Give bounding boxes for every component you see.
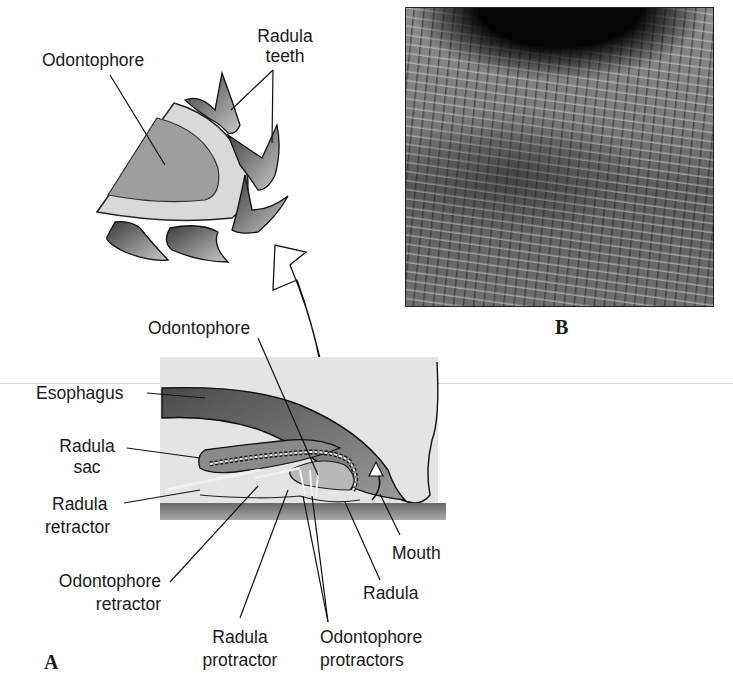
label-mouth: Mouth (392, 543, 441, 563)
label-radula: Radula (363, 583, 418, 603)
label-esophagus: Esophagus (36, 383, 124, 403)
label-radula-sac-1: Radula (52, 436, 122, 456)
label-odontophore-protractors-1: Odontophore (320, 627, 422, 647)
label-radula-retractor-2: retractor (45, 517, 110, 537)
label-radula-protractor-2: protractor (190, 650, 290, 670)
label-odontophore-retractor-1: Odontophore (40, 571, 161, 591)
label-odontophore: Odontophore (148, 318, 250, 338)
label-radula-teeth-1: Radula (255, 26, 315, 46)
label-radula-teeth-2: teeth (255, 46, 315, 66)
label-radula-sac-2: sac (52, 457, 122, 477)
label-radula-retractor-1: Radula (52, 494, 107, 514)
radula-micrograph (405, 7, 714, 307)
panel-letter-a: A (44, 651, 58, 674)
panel-letter-b: B (555, 316, 568, 339)
label-inset-odontophore: Odontophore (42, 50, 144, 70)
odontophore-inset (97, 70, 288, 262)
label-odontophore-protractors-2: protractors (320, 650, 404, 670)
buccal-section (160, 357, 446, 520)
label-radula-protractor-1: Radula (190, 627, 290, 647)
label-odontophore-retractor-2: retractor (40, 594, 161, 614)
